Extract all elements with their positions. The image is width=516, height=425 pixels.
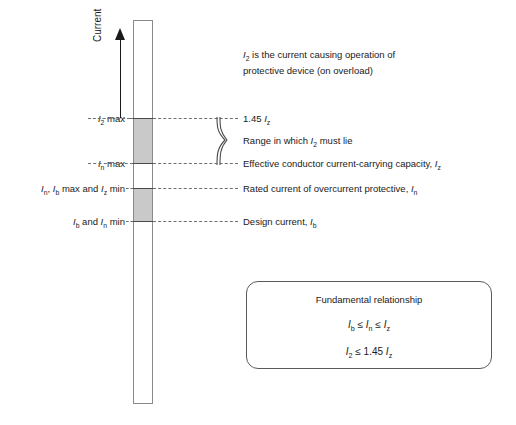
figure-description-line-2: protective device (on overload)	[243, 64, 395, 78]
fundamental-relationship-equation-2: I2 ≤ 1.45 Iz	[247, 346, 491, 360]
level-annotation-1-45-iz: 1.45 Iz	[243, 113, 270, 127]
leader-right-in-max	[153, 163, 238, 164]
leader-left-in-max	[88, 163, 133, 164]
leader-right-in-ib-max	[153, 188, 238, 189]
level-label-in-max: In max	[10, 159, 125, 172]
figure-description: I2 is the current causing operation of p…	[243, 48, 395, 78]
fundamental-relationship-title: Fundamental relationship	[247, 294, 491, 305]
level-label-in-ib-max-iz-min: In, Ib max and Iz min	[10, 184, 125, 197]
level-label-i2-max: I2 max	[10, 114, 125, 127]
range-brace-icon	[213, 116, 231, 166]
level-annotation-design-current: Design current, Ib	[243, 216, 317, 230]
tick-in-max	[133, 163, 153, 164]
leader-left-in-ib-max	[126, 188, 133, 189]
range-brace-label: Range in which I2 must lie	[243, 135, 352, 149]
fundamental-relationship-equation-1: Ib ≤ In ≤ Iz	[247, 319, 491, 333]
shaded-band-in-range	[134, 188, 152, 221]
level-annotation-effective-capacity: Effective conductor current-carrying cap…	[243, 158, 441, 172]
leader-left-ib-in-min	[126, 221, 133, 222]
current-arrow-shaft	[120, 38, 121, 118]
current-coordination-diagram: Current I2 is the current causing operat…	[0, 0, 516, 425]
fundamental-relationship-box: Fundamental relationship Ib ≤ In ≤ Iz I2…	[246, 281, 492, 369]
figure-description-line-1: I2 is the current causing operation of	[243, 48, 395, 64]
level-label-ib-and-in-min: Ib and In min	[10, 217, 125, 230]
shaded-band-i2-range	[134, 118, 152, 163]
tick-ib-and-in-min	[133, 221, 153, 222]
leader-right-ib-in-min	[153, 221, 238, 222]
tick-in-ib-max-iz-min	[133, 188, 153, 189]
leader-left-dash-i2-max	[88, 118, 130, 119]
current-axis-caption: Current	[92, 9, 103, 42]
level-annotation-rated-current: Rated current of overcurrent protective,…	[243, 183, 417, 197]
tick-i2-max	[133, 118, 153, 119]
